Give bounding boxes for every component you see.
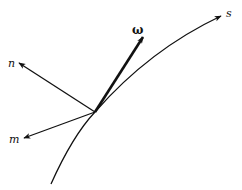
m-label: m — [9, 133, 19, 146]
n-vector-arrow — [19, 63, 95, 112]
omega-label: ω — [132, 23, 143, 37]
n-label: n — [8, 57, 15, 70]
omega-vector-arrow — [95, 37, 143, 112]
diagram-canvas: s ω n m — [0, 0, 242, 190]
curve-s-label: s — [226, 7, 232, 20]
